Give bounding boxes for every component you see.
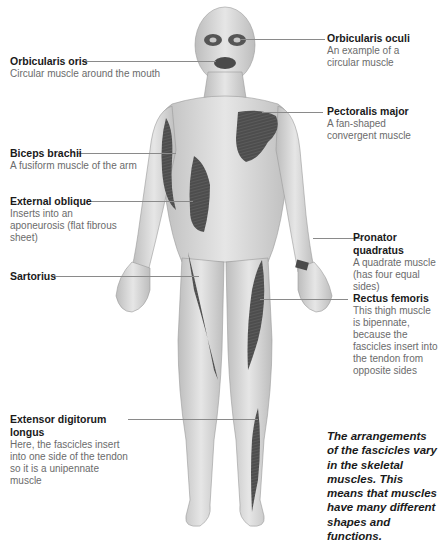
leader-extensor-digitorum-longus (128, 419, 258, 420)
label-title: Extensor digitorum longus (10, 413, 130, 439)
label-description: A fusiform muscle of the arm (10, 160, 140, 172)
label-title: External oblique (10, 195, 120, 208)
label-description: This thigh muscle is bipennate, because … (353, 305, 438, 377)
label-title: Orbicularis oris (10, 55, 170, 68)
label-description: Circular muscle around the mouth (10, 68, 170, 80)
leader-rectus-femoris (260, 299, 348, 300)
label-sartorius: Sartorius (10, 270, 70, 283)
label-pronator-quadratus: Pronator quadratus A quadrate muscle (ha… (353, 231, 438, 293)
label-title: Sartorius (10, 270, 70, 283)
label-orbicularis-oculi: Orbicularis oculi An example of a circul… (327, 32, 432, 69)
label-title: Rectus femoris (353, 292, 438, 305)
label-title: Orbicularis oculi (327, 32, 432, 45)
label-description: An example of a circular muscle (327, 45, 432, 69)
label-orbicularis-oris: Orbicularis oris Circular muscle around … (10, 55, 170, 80)
label-description: Inserts into an aponeurosis (flat fibrou… (10, 208, 120, 244)
label-title: Pronator quadratus (353, 231, 438, 257)
leader-pectoralis-major (262, 112, 323, 113)
leader-sartorius (54, 276, 199, 277)
label-external-oblique: External oblique Inserts into an aponeur… (10, 195, 120, 244)
label-biceps-brachii: Biceps brachii A fusiform muscle of the … (10, 147, 140, 172)
label-title: Pectoralis major (327, 105, 432, 118)
label-title: Biceps brachii (10, 147, 140, 160)
label-description: A fan-shaped convergent muscle (327, 118, 432, 142)
label-extensor-digitorum-longus: Extensor digitorum longus Here, the fasc… (10, 413, 130, 487)
orbicularis-oris-muscle (214, 57, 236, 69)
label-description: Here, the fascicles insert into one side… (10, 439, 130, 487)
label-pectoralis-major: Pectoralis major A fan-shaped convergent… (327, 105, 432, 142)
leader-orbicularis-oculi (240, 39, 325, 40)
label-rectus-femoris: Rectus femoris This thigh muscle is bipe… (353, 292, 438, 377)
summary-note: The arrangements of the fascicles vary i… (327, 429, 437, 541)
label-description: A quadrate muscle (has four equal sides) (353, 257, 438, 293)
